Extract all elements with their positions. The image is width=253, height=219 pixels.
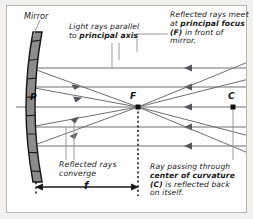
parallel-rays-label-line2-prefix: to bbox=[69, 31, 79, 40]
parallel-rays-label: Light rays parallel to principal axis bbox=[69, 23, 161, 41]
diagram-page: Mirror Light rays parallel to principal … bbox=[0, 0, 253, 219]
center-of-curvature-label: Ray passing through center of curvature … bbox=[150, 163, 246, 198]
parallel-rays-label-line1: Light rays parallel bbox=[69, 22, 139, 31]
parallel-label-leader-lines bbox=[112, 43, 119, 68]
curvature-label-line3-rest: is reflected back bbox=[163, 180, 230, 189]
curvature-label-line4: on itself. bbox=[150, 188, 184, 197]
parallel-rays-label-line2-bold: principal axis bbox=[79, 31, 138, 40]
converge-label-line1: Reflected rays bbox=[59, 160, 117, 169]
converge-label-line2: converge bbox=[59, 169, 96, 178]
converge-label-leader-lines bbox=[66, 122, 74, 160]
focal-length-label: f bbox=[84, 180, 88, 191]
principal-focus-label-line2-bold: principal focus bbox=[180, 19, 245, 28]
parallel-ray-group bbox=[16, 68, 253, 146]
mirror-label: Mirror bbox=[24, 12, 49, 21]
converge-label: Reflected rays converge bbox=[59, 160, 131, 178]
curvature-label-c: (C) bbox=[150, 180, 163, 189]
curvature-label-line1: Ray passing through bbox=[150, 162, 230, 171]
center-point-label: C bbox=[228, 91, 235, 101]
focus-point-marker bbox=[136, 105, 141, 110]
pole-point-label: P bbox=[30, 92, 37, 102]
principal-focus-label: Reflected rays meet at principal focus (… bbox=[170, 11, 250, 46]
principal-focus-label-line2-prefix: at bbox=[170, 19, 180, 28]
incoming-arrowheads bbox=[184, 65, 192, 150]
principal-focus-label-line1: Reflected rays meet bbox=[170, 10, 249, 19]
focus-point-label: F bbox=[130, 91, 136, 101]
curvature-label-line2-bold: center of curvature bbox=[150, 171, 235, 180]
center-point-marker bbox=[231, 105, 236, 110]
principal-focus-label-f: (F) bbox=[170, 28, 182, 37]
